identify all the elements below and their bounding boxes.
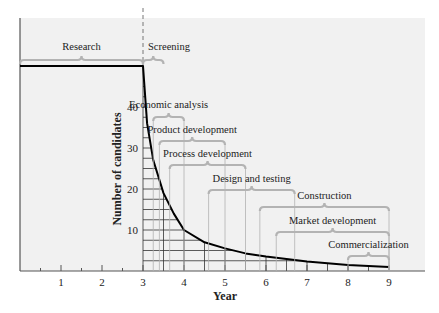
label-screening: Screening [148, 41, 191, 52]
label-commercialization: Commercialization [328, 239, 409, 250]
x-tick-label: 4 [181, 276, 187, 288]
label-process-development: Process development [163, 148, 252, 159]
x-tick-label: 1 [58, 276, 64, 288]
candidates-chart: 123456789Year10203040Number of candidate… [0, 0, 439, 313]
label-market-development: Market development [289, 215, 376, 226]
label-product-development: Product development [147, 124, 237, 135]
x-tick-label: 5 [222, 276, 228, 288]
label-research: Research [62, 41, 101, 52]
y-tick-label: 20 [127, 183, 139, 195]
y-tick-label: 30 [127, 142, 139, 154]
x-axis-label: Year [213, 289, 238, 303]
label-economic-analysis: Economic analysis [129, 99, 208, 110]
y-axis-label: Number of candidates [110, 112, 124, 225]
x-tick-label: 9 [386, 276, 392, 288]
x-tick-label: 3 [140, 276, 146, 288]
x-tick-label: 7 [304, 276, 310, 288]
label-design-and-testing: Design and testing [213, 173, 292, 184]
y-tick-label: 10 [127, 224, 139, 236]
x-tick-label: 6 [263, 276, 269, 288]
x-tick-label: 8 [345, 276, 351, 288]
x-tick-label: 2 [99, 276, 105, 288]
label-construction: Construction [297, 190, 352, 201]
